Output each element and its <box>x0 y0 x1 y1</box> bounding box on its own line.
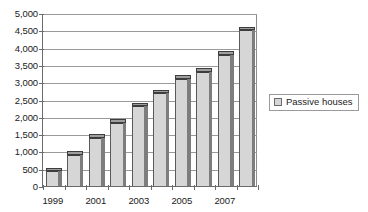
y-axis-tick-label: 2,000 <box>0 113 38 123</box>
bar <box>239 27 255 186</box>
y-tickmark <box>39 14 44 15</box>
bar-top <box>218 51 234 55</box>
bar-face <box>239 30 252 186</box>
y-axis-tick-label: 2,500 <box>0 96 38 106</box>
x-tickmark <box>258 185 259 190</box>
bar-face <box>175 79 188 186</box>
bar-face <box>153 93 166 186</box>
y-tickmark <box>39 170 44 171</box>
y-axis-tick-label: 4,500 <box>0 27 38 37</box>
y-axis-tick-label: 5,000 <box>0 9 38 19</box>
bar-face <box>196 72 209 186</box>
bar <box>110 119 126 186</box>
bar-side <box>209 68 213 186</box>
bar-side <box>123 119 127 186</box>
x-axis-tick-label: 2003 <box>128 196 149 206</box>
chart-legend: Passive houses <box>269 94 359 111</box>
y-tickmark <box>39 135 44 136</box>
bar-face <box>67 155 80 186</box>
x-axis-tick-label: 2007 <box>214 196 235 206</box>
bar-top <box>175 75 191 79</box>
y-axis-tick-label: 3,500 <box>0 61 38 71</box>
bar-top <box>110 119 126 123</box>
bar-top <box>132 103 148 107</box>
legend-label-passive-houses: Passive houses <box>286 97 353 107</box>
bar-top <box>196 68 212 72</box>
x-axis-tick-label: 1999 <box>42 196 63 206</box>
bar <box>196 68 212 186</box>
y-tickmark <box>39 83 44 84</box>
legend-swatch-passive-houses <box>274 98 282 106</box>
bar-series-passive-houses <box>43 14 257 186</box>
y-axis-tick-label: 500 <box>0 165 38 175</box>
bar <box>153 90 169 186</box>
y-tickmark <box>39 49 44 50</box>
bar-top <box>67 151 83 155</box>
bar <box>132 103 148 186</box>
y-tickmark <box>39 152 44 153</box>
bar-top <box>89 134 105 138</box>
bar-face <box>89 138 102 186</box>
y-tickmark <box>39 31 44 32</box>
bar-face <box>110 123 123 186</box>
bar-side <box>101 134 105 186</box>
bar-side <box>230 51 234 186</box>
y-axis-tick-label: 4,000 <box>0 44 38 54</box>
bar-face <box>132 106 145 186</box>
bar <box>46 168 62 186</box>
bar <box>175 75 191 186</box>
bar-side <box>144 103 148 186</box>
bar-top <box>46 168 62 172</box>
plot-area <box>42 14 257 187</box>
bar-top <box>239 27 255 31</box>
bar-side <box>252 27 256 186</box>
y-axis-tick-label: 1,000 <box>0 148 38 158</box>
bar-side <box>166 90 170 186</box>
y-axis-tick-label: 0 <box>0 182 38 192</box>
bar-face <box>46 171 59 186</box>
y-tickmark <box>39 118 44 119</box>
y-axis-labels: 05001,0001,5002,0002,5003,0003,5004,0004… <box>0 0 38 212</box>
bar <box>89 134 105 186</box>
bar-chart: 05001,0001,5002,0002,5003,0003,5004,0004… <box>0 0 368 212</box>
x-axis-tick-label: 2001 <box>85 196 106 206</box>
bar-side <box>80 151 84 186</box>
x-axis-labels: 19992001200320052007 <box>42 190 257 212</box>
bar-face <box>218 55 231 186</box>
x-axis-tick-label: 2005 <box>171 196 192 206</box>
y-tickmark <box>39 66 44 67</box>
bar-top <box>153 90 169 94</box>
y-tickmark <box>39 101 44 102</box>
bar <box>67 151 83 186</box>
y-axis-tick-label: 1,500 <box>0 130 38 140</box>
y-tickmark <box>39 187 44 188</box>
bar-side <box>187 75 191 186</box>
bar <box>218 51 234 186</box>
y-axis-tick-label: 3,000 <box>0 78 38 88</box>
